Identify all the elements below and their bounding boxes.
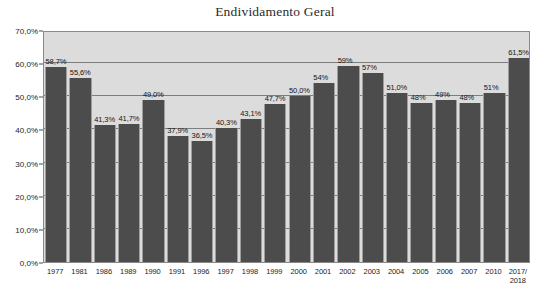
bar[interactable] (362, 73, 384, 262)
x-axis-tick-label: 2007 (457, 267, 481, 276)
bar-value-label: 41,3% (94, 115, 115, 124)
bar-slot (385, 32, 409, 262)
bar-slot (239, 32, 263, 262)
x-axis-tick-label: 1997 (213, 267, 237, 276)
bar[interactable] (337, 66, 359, 262)
bar[interactable] (483, 93, 505, 262)
bar[interactable] (289, 96, 311, 262)
x-axis-tick-label: 1996 (189, 267, 213, 276)
bar-slot (458, 32, 482, 262)
bar[interactable] (167, 136, 189, 262)
y-axis-tick-label: 60,0% (15, 60, 38, 69)
bar-slot (288, 32, 312, 262)
bar[interactable] (410, 103, 432, 262)
x-axis-tick-label: 2004 (384, 267, 408, 276)
bar-slot (117, 32, 141, 262)
bar-value-label: 48% (459, 93, 474, 102)
chart-title: Endividamento Geral (0, 4, 550, 20)
x-axis-tick-label: 2000 (287, 267, 311, 276)
bar-slot (263, 32, 287, 262)
bar-slot (44, 32, 68, 262)
bar-slot (409, 32, 433, 262)
bar-value-label: 59% (338, 56, 353, 65)
bar-value-label: 51% (484, 83, 499, 92)
bar[interactable] (386, 93, 408, 262)
x-axis: 1977198119861989199019911996199719981999… (43, 264, 530, 299)
bar-value-label: 58,7% (46, 57, 67, 66)
bar-slot (214, 32, 238, 262)
y-axis-tick-label: 30,0% (15, 159, 38, 168)
bar-value-label: 43,1% (240, 109, 261, 118)
bar[interactable] (118, 124, 140, 262)
bar-value-label: 50,0% (289, 86, 310, 95)
bar-slot (336, 32, 360, 262)
bar[interactable] (264, 104, 286, 262)
x-axis-tick-label: 1989 (116, 267, 140, 276)
x-axis-tick-label: 2017/2018 (506, 267, 530, 285)
bar[interactable] (45, 67, 67, 262)
x-axis-tick-label: 2001 (311, 267, 335, 276)
bar-slot (93, 32, 117, 262)
bar-slot (312, 32, 336, 262)
plot-area: 58,7%55,6%41,3%41,7%49,0%37,9%36,5%40,3%… (43, 31, 530, 263)
x-axis-tick-label: 2010 (481, 267, 505, 276)
bar-value-label: 49,0% (143, 90, 164, 99)
bar[interactable] (435, 100, 457, 262)
bar-slot (166, 32, 190, 262)
x-axis-tick-label: 2005 (408, 267, 432, 276)
x-axis-tick-label: 2003 (360, 267, 384, 276)
bar-value-label: 61,5% (508, 48, 529, 57)
bar[interactable] (69, 78, 91, 262)
bar-value-label: 54% (313, 73, 328, 82)
bar-chart: Endividamento Geral 0,0%10,0%20,0%30,0%4… (0, 0, 550, 299)
bar[interactable] (142, 100, 164, 262)
bar-value-label: 57% (362, 63, 377, 72)
bar-slot (482, 32, 506, 262)
bar[interactable] (508, 58, 530, 262)
bar[interactable] (94, 125, 116, 262)
x-axis-tick-label: 1986 (92, 267, 116, 276)
y-axis-tick-label: 0,0% (20, 259, 38, 268)
bar-slot (141, 32, 165, 262)
x-axis-tick-label: 1991 (165, 267, 189, 276)
bar-slot (190, 32, 214, 262)
y-axis-tick-label: 70,0% (15, 27, 38, 36)
bar-value-label: 49% (435, 90, 450, 99)
y-axis-tick-label: 40,0% (15, 126, 38, 135)
bar-value-label: 40,3% (216, 118, 237, 127)
x-axis-tick-label: 1981 (67, 267, 91, 276)
bar[interactable] (215, 128, 237, 262)
bar[interactable] (191, 141, 213, 262)
bar-value-label: 36,5% (192, 131, 213, 140)
bar-value-label: 47,7% (265, 94, 286, 103)
y-axis-tick-label: 50,0% (15, 93, 38, 102)
x-axis-tick-label: 2006 (433, 267, 457, 276)
bar[interactable] (240, 119, 262, 262)
bar-value-label: 55,6% (70, 68, 91, 77)
bar-value-label: 41,7% (119, 114, 140, 123)
y-axis-tick-label: 20,0% (15, 192, 38, 201)
bar[interactable] (313, 83, 335, 262)
bar-slot (434, 32, 458, 262)
x-axis-tick-label: 1998 (238, 267, 262, 276)
x-axis-tick-label: 1999 (262, 267, 286, 276)
x-axis-tick-label: 1977 (43, 267, 67, 276)
bar-slot (68, 32, 92, 262)
x-axis-tick-label: 2002 (335, 267, 359, 276)
bar-value-label: 37,9% (167, 126, 188, 135)
y-axis: 0,0%10,0%20,0%30,0%40,0%50,0%60,0%70,0% (0, 31, 43, 263)
bar[interactable] (459, 103, 481, 262)
bar-slot (507, 32, 530, 262)
bar-value-label: 51,0% (386, 83, 407, 92)
y-axis-tick-label: 10,0% (15, 225, 38, 234)
x-axis-tick-label: 1990 (140, 267, 164, 276)
bar-value-label: 48% (411, 93, 426, 102)
